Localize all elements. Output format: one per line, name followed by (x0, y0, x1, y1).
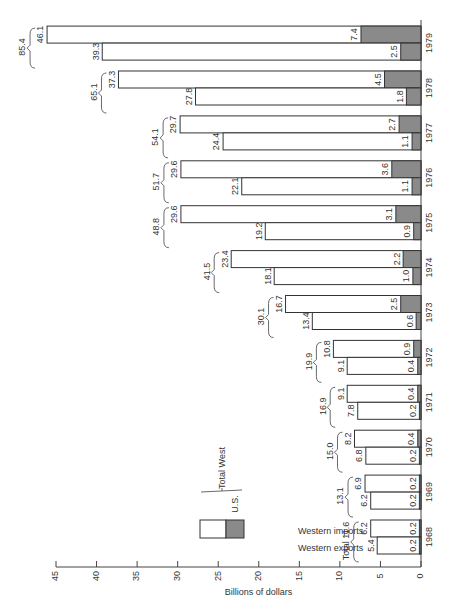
year-label: 1975 (424, 213, 434, 233)
group-total-label: 30.1 (256, 308, 266, 326)
bar-imports-us-1978 (385, 71, 422, 88)
bar-imports-us-1977 (399, 116, 421, 133)
year-label: 1976 (424, 168, 434, 188)
value-label-imports-us: 2.2 (392, 253, 402, 266)
bar-imports-us-1976 (392, 161, 421, 178)
brace-icon (345, 477, 353, 517)
tick-label: 45 (50, 571, 60, 581)
group-total-label: 19.9 (304, 353, 314, 371)
legend-label-us: U.S. (230, 495, 240, 513)
bar-group-1972: 10.80.99.10.4197219.9 (304, 340, 435, 382)
group-total-label: 54.1 (150, 128, 160, 146)
value-label-exports-total-west: 6.8 (354, 449, 364, 462)
bar-exports-total-west-1979 (102, 43, 421, 60)
value-label-imports-total-west: 8.2 (343, 432, 353, 445)
value-label-exports-total-west: 6.2 (359, 494, 369, 507)
value-label-imports-total-west: 37.3 (107, 71, 117, 89)
value-label-exports-total-west: 19.2 (254, 222, 264, 240)
brace-icon (266, 298, 274, 338)
bar-imports-us-1979 (361, 26, 421, 43)
group-total-label: 65.1 (89, 83, 99, 101)
bar-exports-us-1977 (412, 133, 421, 150)
annotation-western-exports: Western exports (298, 543, 364, 553)
group-total-label: 15.0 (325, 442, 335, 460)
value-label-imports-us: 0.9 (402, 343, 412, 356)
value-label-imports-total-west: 16.7 (274, 295, 284, 313)
value-label-exports-total-west: 39.3 (91, 43, 101, 61)
value-label-imports-us: 4.5 (373, 73, 383, 86)
brace-icon (27, 28, 35, 68)
value-label-exports-total-west: 5.4 (366, 539, 376, 552)
value-label-exports-us: 0.2 (408, 494, 418, 507)
year-label: 1971 (424, 392, 434, 412)
bar-exports-total-west-1977 (223, 133, 421, 150)
value-label-exports-us: 0.6 (405, 315, 415, 328)
group-total-label: 13.1 (335, 487, 345, 505)
brace-icon (98, 73, 106, 113)
bar-group-1974: 23.42.218.11.0197441.5 (202, 250, 435, 292)
year-label: 1978 (424, 78, 434, 98)
annotation-western-imports: Western imports (298, 526, 364, 536)
value-label-imports-us: 0.2 (408, 522, 418, 535)
bar-group-1970: 8.20.46.80.2197015.0 (325, 430, 435, 472)
year-label: 1977 (424, 123, 434, 143)
bar-group-1975: 29.63.119.20.9197548.8 (151, 205, 434, 247)
year-label: 1972 (424, 347, 434, 367)
tick-label: 35 (131, 571, 141, 581)
bar-group-1977: 29.72.724.41.1197754.1 (150, 116, 434, 158)
year-label: 1970 (424, 437, 434, 457)
annotations: Western importsWestern exports (298, 526, 364, 553)
bar-imports-us-1972 (414, 340, 421, 357)
bar-exports-us-1976 (412, 178, 421, 195)
brace-icon (211, 253, 219, 293)
export-import-bar-chart: 6.20.25.40.21968Total 11.66.90.26.20.219… (0, 0, 457, 612)
value-label-imports-us: 0.4 (406, 432, 416, 445)
bar-group-1971: 9.10.47.80.2197116.9 (318, 385, 435, 427)
value-label-imports-total-west: 29.6 (169, 205, 179, 223)
value-label-exports-us: 1.1 (400, 180, 410, 193)
value-label-exports-total-west: 13.4 (301, 312, 311, 330)
bar-exports-total-west-1978 (196, 88, 421, 105)
value-label-imports-us: 0.4 (406, 388, 416, 401)
group-total-label: 51.7 (151, 173, 161, 191)
year-label: 1974 (424, 258, 434, 278)
bar-exports-us-1979 (401, 43, 421, 60)
bar-imports-us-1974 (403, 251, 421, 268)
group-total-label: 16.9 (318, 398, 328, 416)
legend-label-total-west: Total West (217, 447, 227, 489)
bar-group-1979: 46.17.439.32.5197985.4 (17, 26, 434, 68)
value-label-exports-total-west: 18.1 (263, 267, 273, 285)
axis-title: Billions of dollars (225, 587, 293, 597)
value-label-exports-total-west: 24.4 (211, 133, 221, 151)
bar-exports-us-1978 (406, 88, 421, 105)
value-label-exports-total-west: 22.1 (230, 178, 240, 196)
value-label-exports-us: 1.0 (401, 270, 411, 283)
bar-exports-total-west-1975 (265, 223, 421, 240)
year-label: 1973 (424, 302, 434, 322)
bar-group-1978: 37.34.527.81.8197865.1 (89, 71, 435, 113)
value-label-exports-us: 1.8 (395, 90, 405, 103)
value-label-exports-us: 1.1 (400, 135, 410, 148)
value-label-exports-total-west: 9.1 (336, 360, 346, 373)
tick-label: 30 (172, 571, 182, 581)
value-label-imports-total-west: 9.1 (336, 388, 346, 401)
legend-swatch-total-west (200, 520, 226, 538)
group-total-label: 85.4 (17, 38, 27, 56)
value-label-imports-us: 3.1 (384, 208, 394, 221)
value-label-imports-us: 0.2 (408, 477, 418, 490)
tick-label: 10 (334, 571, 344, 581)
value-label-exports-us: 0.9 (402, 225, 412, 238)
bar-exports-us-1973 (416, 313, 421, 330)
tick-label: 20 (253, 571, 263, 581)
value-label-imports-us: 2.7 (387, 118, 397, 131)
brace-icon (161, 163, 169, 203)
value-label-imports-us: 7.4 (349, 28, 359, 41)
brace-icon (334, 432, 342, 472)
bar-imports-total-west-1977 (180, 116, 421, 133)
bar-imports-us-1973 (401, 296, 421, 313)
brace-icon (161, 208, 169, 248)
tick-label: 40 (91, 571, 101, 581)
bar-exports-total-west-1976 (242, 178, 421, 195)
value-label-imports-total-west: 23.4 (220, 250, 230, 268)
bar-exports-us-1975 (414, 223, 421, 240)
